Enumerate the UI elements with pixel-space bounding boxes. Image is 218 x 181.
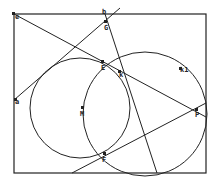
label-F: F bbox=[102, 156, 106, 164]
frame-rect bbox=[14, 14, 206, 173]
geometry-diagram: e b G E k k1 M P F a bbox=[0, 0, 218, 181]
label-M: M bbox=[80, 110, 84, 118]
label-e: e bbox=[15, 13, 19, 21]
line-b-bottom bbox=[105, 14, 157, 173]
label-P: P bbox=[195, 111, 199, 119]
label-k1: k1 bbox=[180, 66, 188, 74]
point-E[interactable] bbox=[101, 60, 104, 63]
line-F-P bbox=[72, 103, 206, 173]
label-G: G bbox=[104, 24, 108, 32]
label-a: a bbox=[15, 98, 19, 106]
point-F[interactable] bbox=[103, 152, 106, 155]
point-M[interactable] bbox=[81, 106, 84, 109]
point-markers bbox=[12, 12, 198, 155]
label-E: E bbox=[101, 64, 105, 72]
point-G[interactable] bbox=[104, 20, 107, 23]
label-b: b bbox=[102, 8, 106, 16]
